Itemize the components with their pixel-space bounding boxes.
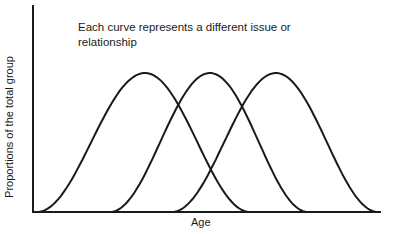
curves [37,73,378,212]
y-axis-label: Proportions of the total group [3,42,15,212]
x-axis-label: Age [191,216,211,228]
chart-annotation: Each curve represents a different issue … [78,20,298,50]
annotation-line-2: relationship [78,35,298,50]
bell-curve-1 [37,73,250,212]
bell-curve-2 [110,73,308,212]
annotation-line-1: Each curve represents a different issue … [78,20,298,35]
bell-curve-3 [172,73,378,212]
